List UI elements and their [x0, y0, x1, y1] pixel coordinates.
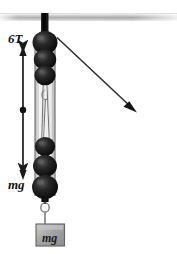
label-weight-mg: mg [8, 178, 25, 191]
pulley-sheave-6 [32, 175, 58, 199]
diagram-svg [0, 0, 177, 254]
pulley-sheave-5 [33, 155, 57, 177]
pull-direction-arrow [57, 38, 137, 113]
label-tension-6t: 6T [8, 32, 22, 45]
force-arrow-midpoint-dot [20, 107, 26, 113]
label-block-mg: mg [42, 232, 57, 244]
force-arrow-head-up [19, 46, 26, 56]
force-double-arrow [19, 46, 26, 180]
pull-arrow-head [124, 101, 138, 112]
physics-diagram-canvas: 6T mg mg [0, 0, 177, 254]
upper-pulley-block [33, 31, 58, 85]
pulley-sheave-3 [34, 66, 55, 86]
ceiling-beam [0, 13, 177, 21]
lower-pulley-block [32, 137, 58, 202]
pulley-sheave-4 [35, 137, 55, 156]
load-hook [41, 199, 49, 225]
